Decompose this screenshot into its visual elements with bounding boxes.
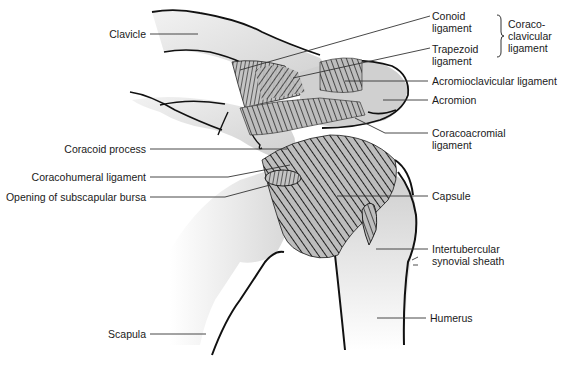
label-acromioclavicular-ligament: Acromioclavicular ligament (432, 75, 557, 87)
label-humerus: Humerus (430, 312, 473, 324)
label-conoid-ligament: Conoid ligament (432, 10, 472, 34)
label-conoid-line1: Conoid (432, 10, 472, 22)
label-conoid-line2: ligament (432, 22, 472, 34)
label-intertubercular-sheath: Intertubercular synovial sheath (432, 243, 504, 267)
label-subscapular-bursa: Opening of subscapular bursa (6, 191, 146, 203)
label-coracoid-process: Coracoid process (64, 143, 146, 155)
label-trapezoid-ligament: Trapezoid ligament (432, 43, 478, 67)
label-intertubercular-line1: Intertubercular (432, 243, 504, 255)
brace-icon (495, 14, 505, 58)
label-coracoclavicular-ligament: Coraco- clavicular ligament (508, 18, 552, 54)
label-coracohumeral-ligament: Coracohumeral ligament (32, 171, 146, 183)
label-trapezoid-line2: ligament (432, 55, 478, 67)
label-acromion: Acromion (432, 94, 476, 106)
label-trapezoid-line1: Trapezoid (432, 43, 478, 55)
label-coracoacromial-line1: Coracoacromial (432, 127, 506, 139)
label-intertubercular-line2: synovial sheath (432, 255, 504, 267)
label-coracoclavicular-line3: ligament (508, 42, 552, 54)
label-clavicle: Clavicle (109, 28, 146, 40)
label-coracoclavicular-line1: Coraco- (508, 18, 552, 30)
label-coracoclavicular-line2: clavicular (508, 30, 552, 42)
label-capsule: Capsule (432, 190, 471, 202)
label-coracoacromial-line2: ligament (432, 139, 506, 151)
subscapular-bursa-opening (265, 170, 301, 186)
label-coracoacromial-ligament: Coracoacromial ligament (432, 127, 506, 151)
label-scapula: Scapula (108, 328, 146, 340)
acromioclavicular-ligament-shape (320, 58, 362, 93)
